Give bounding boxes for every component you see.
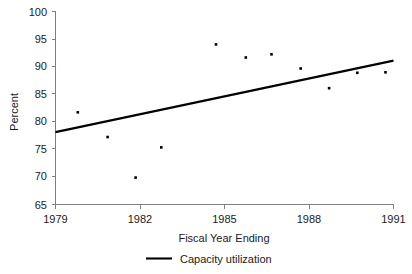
data-point xyxy=(160,146,163,149)
x-tick-label: 1988 xyxy=(297,213,321,225)
data-point xyxy=(106,136,109,139)
data-point xyxy=(77,111,80,114)
data-point xyxy=(245,56,248,59)
y-tick-label: 75 xyxy=(35,143,47,155)
x-axis-ticks xyxy=(56,205,394,209)
axis-lines xyxy=(56,12,394,205)
data-point xyxy=(356,72,359,75)
y-tick-label: 70 xyxy=(35,170,47,182)
y-axis-ticks xyxy=(52,12,56,205)
capacity-utilization-scatter-chart: 100 95 90 85 80 75 70 65 1979 1982 1985 … xyxy=(0,0,412,274)
data-point xyxy=(215,43,218,46)
data-point xyxy=(384,71,387,74)
x-axis-title: Fiscal Year Ending xyxy=(178,232,269,244)
data-point-group xyxy=(77,43,387,179)
y-tick-label: 65 xyxy=(35,199,47,211)
y-axis-tick-labels: 100 95 90 85 80 75 70 65 xyxy=(29,6,47,211)
data-point xyxy=(270,53,273,56)
data-point xyxy=(328,87,331,90)
chart-legend: Capacity utilization xyxy=(146,253,272,265)
y-tick-label: 80 xyxy=(35,115,47,127)
data-point xyxy=(299,67,302,70)
x-tick-label: 1982 xyxy=(128,213,152,225)
y-tick-label: 90 xyxy=(35,60,47,72)
y-tick-label: 100 xyxy=(29,6,47,18)
x-axis-tick-labels: 1979 1982 1985 1988 1991 xyxy=(43,213,405,225)
data-point xyxy=(134,176,137,179)
y-tick-label: 85 xyxy=(35,88,47,100)
x-tick-label: 1979 xyxy=(43,213,67,225)
chart-container: 100 95 90 85 80 75 70 65 1979 1982 1985 … xyxy=(0,0,412,274)
capacity-utilization-trend-line xyxy=(56,61,394,133)
legend-label: Capacity utilization xyxy=(180,253,272,265)
y-tick-label: 95 xyxy=(35,33,47,45)
x-tick-label: 1985 xyxy=(212,213,236,225)
y-axis-title: Percent xyxy=(8,93,20,131)
x-tick-label: 1991 xyxy=(381,213,405,225)
